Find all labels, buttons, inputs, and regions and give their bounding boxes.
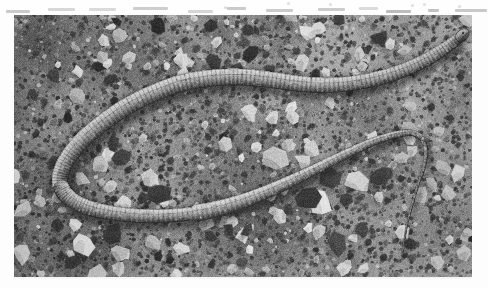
cutoff-text-fragment	[227, 7, 245, 10]
scan-speck	[329, 3, 332, 6]
page-shadow	[14, 277, 472, 280]
cutoff-text-row	[0, 0, 488, 13]
photograph-image	[14, 15, 472, 277]
scan-speck	[411, 4, 414, 7]
cutoff-text-fragment	[386, 10, 411, 13]
cutoff-text-fragment	[133, 7, 169, 10]
scan-speck	[287, 2, 290, 5]
cutoff-text-fragment	[318, 8, 345, 11]
scan-speck	[458, 5, 461, 8]
cutoff-text-fragment	[188, 10, 212, 13]
scan-speck	[423, 3, 426, 6]
cutoff-text-fragment	[428, 9, 438, 12]
scan-speck	[224, 6, 227, 9]
cutoff-text-fragment	[89, 8, 116, 11]
cutoff-text-fragment	[359, 7, 377, 10]
scanned-page	[0, 0, 488, 288]
cutoff-text-fragment	[455, 9, 488, 12]
cutoff-text-fragment	[48, 8, 76, 11]
cutoff-text-fragment	[266, 9, 293, 12]
cutoff-text-fragment	[6, 10, 30, 13]
photograph	[14, 15, 472, 277]
